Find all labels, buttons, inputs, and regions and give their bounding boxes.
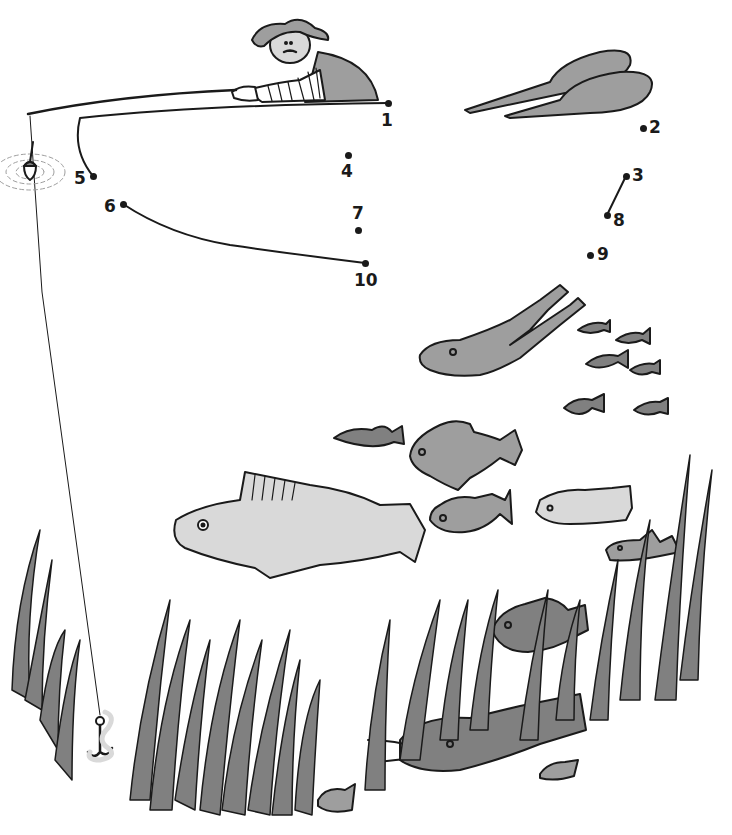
dot-1[interactable] [385,100,392,107]
hook-with-worm [88,712,112,760]
dot-label-4: 4 [341,163,353,180]
fisherman-hand [232,87,258,101]
sunfish-lower [430,490,512,532]
white-bass [536,486,632,524]
perch [174,472,425,578]
frog [420,285,585,376]
dot-label-8: 8 [613,212,625,229]
dot-label-10: 10 [354,272,378,289]
fisherman-arm [254,70,325,102]
fisherman [232,20,378,102]
connecting-lines [78,103,626,263]
dot-label-3: 3 [632,167,644,184]
dot-label-2: 2 [649,119,661,136]
dot-to-dot-illustration [0,0,732,835]
dot-4[interactable] [345,152,352,159]
small-bass [334,426,404,446]
sunfish-upper [410,421,522,490]
dot-2[interactable] [640,125,647,132]
dot-10[interactable] [362,260,369,267]
dot-7[interactable] [355,227,362,234]
dot-9[interactable] [587,252,594,259]
minnow-school [564,320,668,415]
dot-label-9: 9 [597,246,609,263]
dot-8[interactable] [604,212,611,219]
fishing-rod [28,90,236,114]
cattails [465,51,652,118]
bobber [0,142,65,190]
dot-3[interactable] [623,173,630,180]
line-6-10 [123,204,365,263]
dot-label-7: 7 [352,205,364,222]
dot-label-1: 1 [381,112,393,129]
dot-label-6: 6 [104,198,116,215]
dot-5[interactable] [90,173,97,180]
dot-label-5: 5 [74,170,86,187]
dot-6[interactable] [120,201,127,208]
